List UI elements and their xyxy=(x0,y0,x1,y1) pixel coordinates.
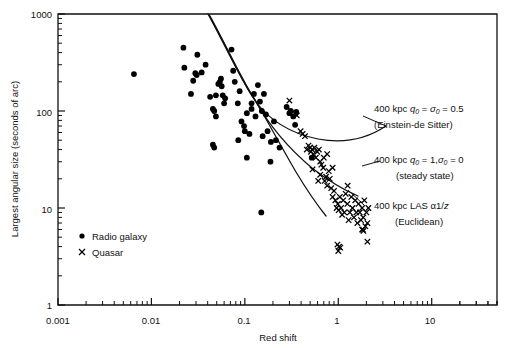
data-point-radio-galaxy xyxy=(235,137,241,143)
data-point-radio-galaxy xyxy=(229,47,235,53)
data-point-radio-galaxy xyxy=(181,65,187,71)
annotation-3-line-1: 400 kpc LAS α1/z xyxy=(374,200,449,211)
annotation-einstein-de-sitter: 400 kpc q0 = σ0 = 0.5 (Einstein-de Sitte… xyxy=(374,103,464,130)
x-axis-title: Red shift xyxy=(259,332,297,343)
data-point-radio-galaxy xyxy=(181,45,187,51)
data-point-radio-galaxy xyxy=(253,113,259,119)
legend-label-radio-galaxy: Radio galaxy xyxy=(92,231,147,242)
data-point-radio-galaxy xyxy=(218,76,224,82)
data-point-radio-galaxy xyxy=(263,112,269,118)
data-point-radio-galaxy xyxy=(244,155,250,161)
data-point-radio-galaxy xyxy=(251,91,257,97)
annot-3-prefix: 400 kpc LAS xyxy=(374,200,431,211)
data-point-radio-galaxy xyxy=(292,122,298,128)
annotation-steady-state: 400 kpc q0 = 1,σ0 = 0 (steady state) xyxy=(374,154,464,181)
data-point-radio-galaxy xyxy=(211,145,217,151)
annotation-euclidean: 400 kpc LAS α1/z (Euclidean) xyxy=(374,200,449,227)
data-point-quasar xyxy=(331,188,336,193)
data-point-radio-galaxy xyxy=(271,119,277,125)
data-points xyxy=(131,45,371,254)
y-tick-labels: 1000 100 10 1 xyxy=(31,9,52,311)
data-point-radio-galaxy xyxy=(277,145,283,151)
data-point-quasar xyxy=(351,215,356,220)
data-point-quasar xyxy=(346,217,351,222)
data-point-radio-galaxy xyxy=(273,137,279,143)
y-tick-label-1000: 1000 xyxy=(31,9,52,20)
x-tick-label-10: 10 xyxy=(425,315,436,326)
data-point-quasar xyxy=(287,98,292,103)
data-point-radio-galaxy xyxy=(213,92,219,98)
data-point-radio-galaxy xyxy=(213,113,219,119)
data-point-radio-galaxy xyxy=(255,82,261,88)
data-point-quasar xyxy=(316,178,321,183)
annot-2-suffix: = 0 xyxy=(448,154,464,165)
data-point-radio-galaxy xyxy=(194,72,200,78)
data-point-radio-galaxy xyxy=(268,139,274,145)
data-point-radio-galaxy xyxy=(258,210,264,216)
data-point-radio-galaxy xyxy=(237,88,243,94)
data-point-radio-galaxy xyxy=(230,68,236,74)
data-point-radio-galaxy xyxy=(211,108,217,114)
figure-root: 1000 100 10 1 0.001 0.01 0.1 1 10 Red sh… xyxy=(0,0,514,348)
data-point-quasar xyxy=(365,239,370,244)
legend: Radio galaxy Quasar xyxy=(79,231,147,258)
annot-2-mid: = 1, xyxy=(419,154,438,165)
data-point-quasar xyxy=(338,205,343,210)
legend-label-quasar: Quasar xyxy=(92,247,123,258)
x-tick-label-1: 1 xyxy=(334,315,339,326)
annot-1-mid: = xyxy=(419,103,430,114)
data-point-radio-galaxy xyxy=(203,62,209,68)
data-point-quasar xyxy=(345,201,350,206)
x-tick-label-0-001: 0.001 xyxy=(46,315,70,326)
data-point-quasar xyxy=(342,210,347,215)
data-point-radio-galaxy xyxy=(261,91,267,97)
annot-3-sym2: z xyxy=(443,200,449,211)
legend-marker-radio-galaxy xyxy=(79,233,84,238)
y-tick-label-100: 100 xyxy=(36,107,52,118)
curve-einstein-de-sitter xyxy=(208,14,386,141)
annotation-1-line-1: 400 kpc q0 = σ0 = 0.5 xyxy=(374,103,464,115)
data-point-quasar xyxy=(343,191,348,196)
annotation-1-line-2: (Einstein-de Sitter) xyxy=(374,119,453,130)
data-point-radio-galaxy xyxy=(257,99,263,105)
data-point-radio-galaxy xyxy=(219,83,225,89)
legend-marker-quasar xyxy=(79,249,85,255)
data-point-radio-galaxy xyxy=(268,159,274,165)
data-point-radio-galaxy xyxy=(131,71,137,77)
data-point-radio-galaxy xyxy=(260,133,266,139)
data-point-radio-galaxy xyxy=(199,70,205,76)
y-tick-label-10: 10 xyxy=(41,204,52,215)
data-point-quasar xyxy=(330,165,335,170)
data-point-radio-galaxy xyxy=(188,91,194,97)
data-point-quasar xyxy=(324,151,329,156)
data-point-radio-galaxy xyxy=(194,52,200,58)
data-point-radio-galaxy xyxy=(244,110,250,116)
annotation-3-line-2: (Euclidean) xyxy=(395,216,443,227)
x-tick-label-0-01: 0.01 xyxy=(142,315,161,326)
annotation-2-line-2: (steady state) xyxy=(396,170,454,181)
curve-steady-state xyxy=(209,15,358,196)
data-point-quasar xyxy=(345,183,350,188)
data-point-quasar xyxy=(361,215,366,220)
data-point-radio-galaxy xyxy=(235,100,241,106)
y-axis-title: Largest angular size (seconds of arc) xyxy=(9,81,20,237)
data-point-radio-galaxy xyxy=(222,95,228,101)
data-point-radio-galaxy xyxy=(249,100,255,106)
data-point-radio-galaxy xyxy=(232,79,238,85)
data-point-radio-galaxy xyxy=(190,78,196,84)
x-tick-label-0-1: 0.1 xyxy=(237,315,250,326)
annot-2-prefix: 400 kpc xyxy=(374,154,410,165)
data-point-radio-galaxy xyxy=(207,94,213,100)
y-tick-label-1: 1 xyxy=(47,300,52,311)
chart-canvas: 1000 100 10 1 0.001 0.01 0.1 1 10 Red sh… xyxy=(0,0,514,348)
annot-1-suffix: = 0.5 xyxy=(440,103,464,114)
annotation-2-line-1: 400 kpc q0 = 1,σ0 = 0 xyxy=(374,154,464,166)
annot-1-prefix: 400 kpc xyxy=(374,103,410,114)
data-point-radio-galaxy xyxy=(241,123,247,129)
x-tick-labels: 0.001 0.01 0.1 1 10 xyxy=(46,315,435,326)
data-point-radio-galaxy xyxy=(249,106,255,112)
data-point-radio-galaxy xyxy=(221,100,227,106)
data-point-radio-galaxy xyxy=(265,128,271,134)
data-point-radio-galaxy xyxy=(247,131,253,137)
data-point-quasar xyxy=(362,198,367,203)
